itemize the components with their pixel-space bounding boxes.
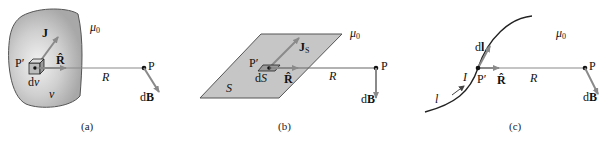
label-field-point: P — [381, 59, 388, 73]
label-source-point: P′ — [249, 56, 259, 70]
label-unit-vector: R̂ — [284, 72, 293, 86]
label-dB: dB — [583, 90, 597, 104]
caption-a: (a) — [81, 120, 94, 133]
biot-savart-figure: J P′ R̂ dv v R P dB μ0 (a) JS P′ dS R̂ S… — [0, 0, 612, 142]
label-dB: dB — [361, 92, 375, 106]
label-field-point: P — [589, 59, 596, 73]
label-source-point: P′ — [15, 56, 25, 70]
label-region: v — [49, 87, 55, 101]
caption-b: (b) — [278, 120, 291, 133]
label-field-point: P — [148, 59, 155, 73]
current-wire — [425, 16, 532, 112]
caption-c: (c) — [509, 120, 522, 133]
panel-c: dl I P′ R̂ R P dB l μ0 (c) — [425, 16, 598, 133]
panel-b: JS P′ dS R̂ S R P dB μ0 (b) — [200, 26, 388, 133]
source-point — [476, 66, 481, 71]
label-unit-vector: R̂ — [497, 73, 506, 87]
label-source-point: P′ — [477, 72, 487, 86]
label-medium: μ0 — [555, 26, 566, 41]
label-dl: dl — [475, 40, 485, 54]
volume-element-cube — [29, 59, 44, 74]
label-region: S — [226, 81, 232, 95]
label-medium: μ0 — [349, 26, 360, 41]
label-J: J — [42, 26, 48, 40]
label-distance: R — [101, 70, 110, 84]
label-medium: μ0 — [89, 20, 100, 35]
label-unit-vector: R̂ — [56, 53, 65, 67]
label-distance: R — [529, 71, 538, 85]
label-distance: R — [328, 69, 337, 83]
label-dB: dB — [140, 90, 154, 104]
label-curve: l — [435, 92, 439, 106]
label-current: I — [462, 70, 468, 84]
label-dv: dv — [28, 75, 40, 89]
label-dS: dS — [255, 71, 267, 85]
panel-a: J P′ R̂ dv v R P dB μ0 (a) — [9, 9, 159, 133]
